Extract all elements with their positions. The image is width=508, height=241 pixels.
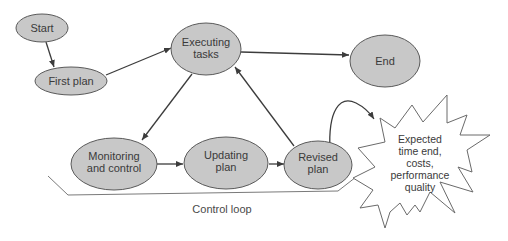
- node-revised-plan: Revised plan: [284, 141, 352, 189]
- node-first-plan: First plan: [35, 67, 107, 95]
- edge-revised-to-callout: [330, 101, 374, 150]
- edge-executing-to-monitoring: [142, 74, 192, 140]
- node-revised-label-1: Revised: [298, 151, 338, 163]
- callout-text-line-5: quality: [405, 181, 436, 193]
- node-updating-label-2: plan: [216, 161, 237, 173]
- node-revised-label-2: plan: [308, 163, 329, 175]
- node-executing-label-2: tasks: [193, 48, 219, 60]
- edge-executing-to-end: [241, 52, 349, 55]
- edge-first-plan-to-executing: [106, 48, 171, 75]
- node-executing-tasks: Executing tasks: [171, 23, 241, 75]
- callout-text-line-4: performance: [391, 169, 450, 181]
- node-end: End: [350, 35, 420, 87]
- node-monitoring-and-control: Monitoring and control: [71, 138, 157, 190]
- callout-text-line-2: time end,: [398, 145, 441, 157]
- control-loop-label: Control loop: [192, 203, 251, 215]
- callout-text-line-3: costs,: [406, 157, 433, 169]
- process-flow-diagram: Control loop Expected time end, costs, p…: [0, 0, 508, 241]
- node-start: Start: [16, 14, 68, 42]
- edge-revised-to-executing: [235, 67, 294, 146]
- node-executing-label-1: Executing: [182, 36, 230, 48]
- node-end-label: End: [375, 55, 395, 67]
- node-start-label: Start: [30, 22, 53, 34]
- node-updating-plan: Updating plan: [184, 137, 268, 189]
- node-monitoring-label-1: Monitoring: [88, 150, 139, 162]
- callout-text-line-1: Expected: [398, 133, 442, 145]
- edge-start-to-first-plan: [46, 42, 54, 67]
- node-monitoring-label-2: and control: [87, 162, 141, 174]
- node-first-plan-label: First plan: [48, 75, 93, 87]
- node-updating-label-1: Updating: [204, 149, 248, 161]
